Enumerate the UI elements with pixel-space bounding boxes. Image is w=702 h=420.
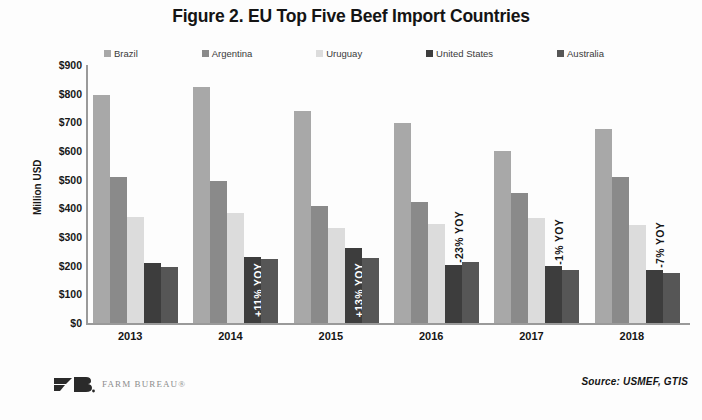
y-axis-tick: $200 [59,260,82,272]
farm-bureau-label: FARM BUREAU® [102,379,186,389]
bar-brazil-2013[interactable] [93,95,110,323]
legend-label: Brazil [114,48,138,59]
chart-page: Figure 2. EU Top Five Beef Import Countr… [0,0,702,420]
y-axis-tick: $800 [59,88,82,100]
bar-australia-2016[interactable] [462,262,479,323]
bar-brazil-2016[interactable] [394,123,411,323]
y-axis: Million USD $900$800$700$600$500$400$300… [36,65,82,323]
legend-item-uruguay[interactable]: Uruguay [316,48,362,59]
bar-group-2018: -7% YOY [590,65,690,323]
bar-australia-2015[interactable] [362,258,379,323]
page-title: Figure 2. EU Top Five Beef Import Countr… [0,6,702,27]
bar-united-states-2015[interactable]: +13% YOY [345,248,362,323]
bar-uruguay-2013[interactable] [127,217,144,323]
bar-argentina-2015[interactable] [311,206,328,323]
bar-annotation: -23% YOY [453,211,465,263]
x-axis-tick-2013: 2013 [88,330,188,350]
x-axis: 201320142015201620172018 [88,330,690,350]
bar-uruguay-2016[interactable] [428,224,445,323]
bar-group-2013 [88,65,188,323]
x-axis-tick-2017: 2017 [489,330,589,350]
y-axis-tick: $400 [59,202,82,214]
legend-label: Australia [567,48,604,59]
y-axis-tick: $900 [59,59,82,71]
bar-uruguay-2015[interactable] [328,228,345,323]
bar-annotation: -7% YOY [654,222,666,268]
x-axis-tick-2014: 2014 [188,330,288,350]
legend-swatch-icon [104,50,111,57]
bar-argentina-2017[interactable] [511,193,528,323]
bar-united-states-2013[interactable] [144,263,161,323]
bar-annotation: -1% YOY [553,219,565,265]
bar-group-2015: +13% YOY [289,65,389,323]
bar-argentina-2013[interactable] [110,177,127,323]
y-axis-tick: $500 [59,174,82,186]
legend-item-australia[interactable]: Australia [557,48,604,59]
bar-australia-2014[interactable] [261,259,278,323]
chart-legend: BrazilArgentinaUruguayUnited StatesAustr… [104,48,604,59]
bar-brazil-2017[interactable] [494,151,511,323]
x-axis-tick-2015: 2015 [289,330,389,350]
source-note: Source: USMEF, GTIS [581,376,688,387]
y-axis-tick: $700 [59,116,82,128]
x-axis-line [86,323,690,325]
bar-argentina-2014[interactable] [210,181,227,323]
y-axis-tick: $600 [59,145,82,157]
legend-item-argentina[interactable]: Argentina [202,48,253,59]
legend-swatch-icon [202,50,209,57]
bar-group-2014: +11% YOY [188,65,288,323]
farm-bureau-logo: FARM BUREAU® [52,374,186,394]
chart-footer: FARM BUREAU® Source: USMEF, GTIS [0,372,702,412]
legend-label: Uruguay [326,48,362,59]
bar-brazil-2018[interactable] [595,129,612,323]
legend-label: United States [436,48,493,59]
bar-united-states-2014[interactable]: +11% YOY [244,257,261,324]
y-axis-title: Million USD [32,159,43,215]
bar-group-2017: -1% YOY [489,65,589,323]
legend-swatch-icon [426,50,433,57]
legend-item-brazil[interactable]: Brazil [104,48,138,59]
legend-swatch-icon [316,50,323,57]
legend-label: Argentina [212,48,253,59]
bar-groups: +11% YOY+13% YOY-23% YOY-1% YOY-7% YOY [88,65,690,323]
legend-swatch-icon [557,50,564,57]
bar-group-2016: -23% YOY [389,65,489,323]
bar-australia-2018[interactable] [663,273,680,323]
x-axis-tick-2016: 2016 [389,330,489,350]
bar-united-states-2018[interactable]: -7% YOY [646,270,663,323]
bar-uruguay-2017[interactable] [528,218,545,323]
y-axis-tick: $100 [59,288,82,300]
x-axis-tick-2018: 2018 [590,330,690,350]
y-axis-tick: $300 [59,231,82,243]
bar-argentina-2018[interactable] [612,177,629,323]
bar-united-states-2017[interactable]: -1% YOY [545,266,562,323]
bar-australia-2013[interactable] [161,267,178,323]
farm-bureau-mark-icon [52,374,96,394]
bar-uruguay-2014[interactable] [227,213,244,323]
y-axis-tick: $0 [70,317,82,329]
bar-brazil-2014[interactable] [193,87,210,324]
bar-united-states-2016[interactable]: -23% YOY [445,265,462,323]
bar-australia-2017[interactable] [562,270,579,323]
bar-argentina-2016[interactable] [411,202,428,323]
legend-item-united-states[interactable]: United States [426,48,493,59]
bar-uruguay-2018[interactable] [629,225,646,323]
bar-brazil-2015[interactable] [294,111,311,323]
